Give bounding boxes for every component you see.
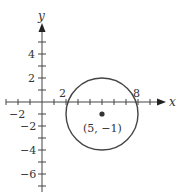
graph-canvas: x y −2 2 8 4 2 −2 −4 −6 (5, −1) (0, 0, 179, 194)
center-point (99, 111, 104, 116)
y-tick-label-neg6: −6 (20, 168, 36, 181)
y-tick-label-2: 2 (28, 72, 35, 85)
y-tick-label-neg2: −2 (20, 120, 36, 133)
y-axis-label: y (37, 9, 45, 23)
x-axis-arrow-icon (157, 99, 166, 106)
x-tick-label-8: 8 (133, 87, 140, 100)
x-axis-label: x (169, 95, 176, 109)
y-tick-label-neg4: −4 (20, 144, 36, 157)
y-axis-arrow-icon (39, 23, 46, 32)
x-tick-label-2: 2 (59, 87, 66, 100)
center-point-label: (5, −1) (83, 122, 122, 135)
y-tick-label-4: 4 (28, 48, 35, 61)
